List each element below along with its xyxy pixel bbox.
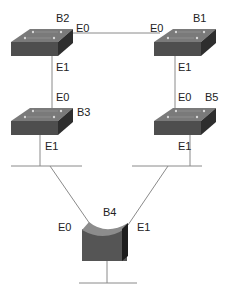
label-b2: B2 (56, 13, 69, 24)
label-b2-e0: E0 (76, 23, 89, 34)
label-b4-e0: E0 (58, 222, 71, 233)
link-lanright-b4 (128, 166, 168, 225)
bridge-b4[interactable] (82, 222, 128, 261)
label-b4-e1: E1 (137, 222, 150, 233)
switch-b3[interactable] (11, 108, 73, 135)
label-b5: B5 (205, 92, 218, 103)
link-lanleft-b4 (50, 166, 90, 224)
switch-b2[interactable] (11, 29, 73, 56)
label-b4: B4 (103, 207, 116, 218)
label-b5-e0: E0 (178, 92, 191, 103)
network-diagram (0, 0, 226, 299)
switch-b5[interactable] (154, 108, 216, 135)
label-b3-e0: E0 (56, 92, 69, 103)
label-b1-e0: E0 (150, 23, 163, 34)
label-b3-e1: E1 (45, 141, 58, 152)
label-b5-e1: E1 (178, 141, 191, 152)
label-b3: B3 (77, 107, 90, 118)
label-b1-e1: E1 (178, 62, 191, 73)
label-b2-e1: E1 (56, 62, 69, 73)
label-b1: B1 (193, 13, 206, 24)
